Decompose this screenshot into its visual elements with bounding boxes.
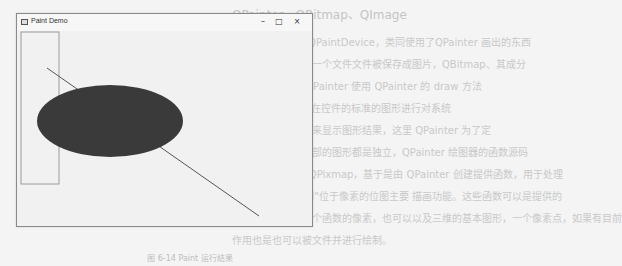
app-icon bbox=[21, 19, 28, 25]
minimize-button[interactable]: – bbox=[256, 16, 270, 28]
drawing-surface bbox=[17, 31, 312, 226]
maximize-button[interactable]: □ bbox=[272, 16, 286, 28]
close-button[interactable]: × bbox=[290, 16, 304, 28]
paint-demo-window: Paint Demo – □ × bbox=[16, 13, 313, 227]
drawn-ellipse bbox=[37, 85, 183, 157]
window-title: Paint Demo bbox=[31, 17, 68, 24]
figure-caption: 图 6-14 Paint 运行结果 bbox=[100, 252, 280, 264]
bg-text-line: 作用也是也可以被文件并进行绘制。 bbox=[232, 230, 392, 252]
title-bar[interactable]: Paint Demo – □ × bbox=[17, 14, 312, 31]
paint-canvas[interactable] bbox=[17, 31, 312, 226]
